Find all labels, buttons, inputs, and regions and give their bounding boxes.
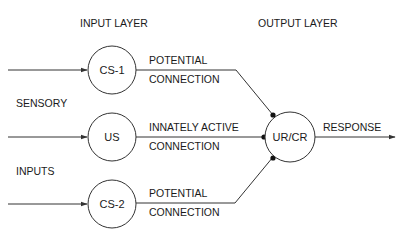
cs2-connection-label-1: POTENTIAL [149,187,208,199]
us-connection-label-1: INNATELY ACTIVE [149,121,239,133]
cs1-connection-label-2: CONNECTION [149,73,220,85]
us-node-label: US [104,131,119,143]
us-connection-label-2: CONNECTION [149,140,220,152]
urcr-node: UR/CR [265,112,315,162]
conditioning-network-diagram: INPUT LAYER OUTPUT LAYER SENSORY INPUTS … [0,0,399,230]
us-node: US [88,113,136,161]
cs1-node: CS-1 [88,46,136,94]
input-layer-heading: INPUT LAYER [80,17,148,29]
cs2-node-label: CS-2 [99,198,124,210]
urcr-node-label: UR/CR [273,131,308,143]
cs1-node-label: CS-1 [99,64,124,76]
cs1-connection-label-1: POTENTIAL [149,54,208,66]
cs2-node: CS-2 [88,180,136,228]
response-label: RESPONSE [323,121,381,133]
sensory-label: SENSORY [16,97,67,109]
inputs-label: INPUTS [16,165,55,177]
cs2-connection-label-2: CONNECTION [149,206,220,218]
output-layer-heading: OUTPUT LAYER [258,17,338,29]
